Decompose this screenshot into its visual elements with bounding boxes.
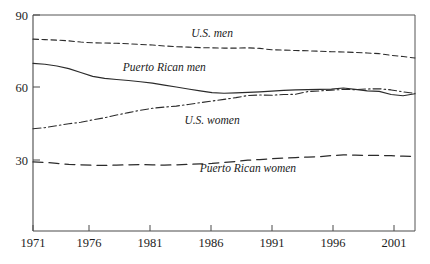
- x-tick-label-1991: 1991: [260, 236, 285, 250]
- x-tick-label-1971: 1971: [21, 236, 46, 250]
- x-axis-ticks: [33, 225, 394, 231]
- x-axis-tick-labels: 1971 1976 1981 1986 1991 1996 2001: [21, 236, 407, 250]
- x-tick-label-1986: 1986: [199, 236, 224, 250]
- y-tick-label-30: 30: [16, 154, 29, 168]
- series-label-puerto-rican-women: Puerto Rican women: [199, 162, 297, 174]
- y-tick-label-90: 90: [16, 9, 29, 23]
- series-label-us-men: U.S. men: [191, 27, 233, 39]
- y-axis-tick-labels: 90 60 30: [16, 9, 29, 168]
- series-label-puerto-rican-men: Puerto Rican men: [122, 61, 206, 73]
- x-tick-label-1981: 1981: [138, 236, 163, 250]
- x-tick-label-1996: 1996: [321, 236, 346, 250]
- y-tick-label-60: 60: [16, 81, 29, 95]
- y-axis-ticks: [33, 15, 40, 160]
- line-chart: 90 60 30 1971 1976 1981 1986 1991 1996 2…: [0, 0, 430, 264]
- x-tick-label-1976: 1976: [77, 236, 102, 250]
- series-labels: U.S. men Puerto Rican men U.S. women Pue…: [122, 27, 297, 174]
- series-group: [33, 39, 415, 165]
- x-tick-label-2001: 2001: [382, 236, 407, 250]
- series-line-us-men: [33, 39, 415, 58]
- chart-canvas: 90 60 30 1971 1976 1981 1986 1991 1996 2…: [0, 0, 430, 264]
- series-label-us-women: U.S. women: [184, 114, 240, 126]
- series-line-puerto-rican-men: [33, 63, 415, 95]
